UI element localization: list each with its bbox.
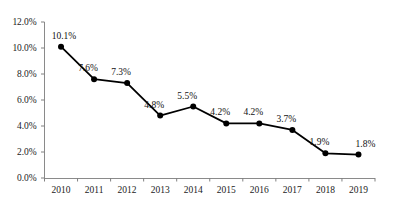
x-axis-tick-label: 2010 bbox=[45, 185, 78, 195]
x-axis-tick-label: 2011 bbox=[78, 185, 111, 195]
x-axis-tick-label: 2017 bbox=[276, 185, 309, 195]
y-axis-tick-label: 2.0% bbox=[0, 147, 37, 157]
data-point-label: 1.8% bbox=[350, 139, 380, 149]
data-point-marker[interactable] bbox=[223, 120, 229, 126]
y-axis-tick-label: 10.0% bbox=[0, 43, 37, 53]
data-point-marker[interactable] bbox=[157, 113, 163, 119]
y-axis-tick-label: 8.0% bbox=[0, 69, 37, 79]
x-axis-tick-label: 2013 bbox=[144, 185, 177, 195]
data-point-marker[interactable] bbox=[322, 150, 328, 156]
data-point-label: 5.5% bbox=[172, 91, 202, 101]
y-axis-tick-label: 4.0% bbox=[0, 121, 37, 131]
data-point-marker[interactable] bbox=[289, 127, 295, 133]
y-axis-tick-label: 0.0% bbox=[0, 173, 37, 183]
line-chart: 0.0%2.0%4.0%6.0%8.0%10.0%12.0% 201020112… bbox=[0, 0, 393, 219]
axes-group bbox=[41, 22, 375, 182]
data-point-marker[interactable] bbox=[355, 152, 361, 158]
y-axis-tick-label: 6.0% bbox=[0, 95, 37, 105]
data-point-marker[interactable] bbox=[256, 120, 262, 126]
data-point-marker[interactable] bbox=[91, 76, 97, 82]
data-point-label: 1.9% bbox=[304, 137, 334, 147]
x-axis-tick-label: 2018 bbox=[309, 185, 342, 195]
data-point-label: 7.6% bbox=[73, 63, 103, 73]
data-point-label: 7.3% bbox=[106, 67, 136, 77]
data-point-label: 3.7% bbox=[271, 114, 301, 124]
y-axis-ticks bbox=[41, 22, 45, 178]
data-point-marker[interactable] bbox=[124, 80, 130, 86]
x-axis-tick-label: 2014 bbox=[177, 185, 210, 195]
x-axis-tick-label: 2019 bbox=[342, 185, 375, 195]
x-axis-tick-label: 2015 bbox=[210, 185, 243, 195]
data-point-label: 4.2% bbox=[205, 107, 235, 117]
x-axis-tick-label: 2016 bbox=[243, 185, 276, 195]
x-axis-tick-label: 2012 bbox=[111, 185, 144, 195]
y-axis-tick-label: 12.0% bbox=[0, 17, 37, 27]
data-point-marker[interactable] bbox=[58, 44, 64, 50]
data-point-label: 10.1% bbox=[49, 31, 79, 41]
data-point-label: 4.8% bbox=[139, 100, 169, 110]
data-point-marker[interactable] bbox=[190, 104, 196, 110]
data-point-label: 4.2% bbox=[238, 107, 268, 117]
